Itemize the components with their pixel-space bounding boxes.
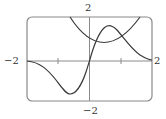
y-max-label: 2 xyxy=(85,3,91,13)
y-min-label: −2 xyxy=(83,106,98,116)
parabola-curve xyxy=(70,17,140,43)
graph-plot xyxy=(0,0,166,119)
x-min-label: −2 xyxy=(4,56,19,66)
x-max-label: 2 xyxy=(154,56,160,66)
